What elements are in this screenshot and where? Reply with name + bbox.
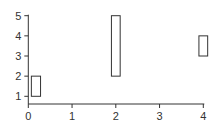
- chart: 1234501234: [0, 0, 222, 130]
- y-tick-label: 3: [15, 50, 21, 62]
- axes: 1234501234: [15, 10, 206, 122]
- x-tick-label: 3: [156, 110, 162, 122]
- data-rectangle: [31, 76, 40, 96]
- x-tick-label: 2: [113, 110, 119, 122]
- y-tick-label: 5: [15, 10, 21, 22]
- x-tick-label: 1: [69, 110, 75, 122]
- y-tick-label: 2: [15, 70, 21, 82]
- data-rectangle: [111, 16, 120, 76]
- data-rectangle: [199, 36, 208, 56]
- rectangles: [31, 16, 207, 97]
- x-tick-label: 4: [200, 110, 206, 122]
- y-tick-label: 4: [15, 30, 21, 42]
- x-tick-label: 0: [25, 110, 31, 122]
- y-tick-label: 1: [15, 90, 21, 102]
